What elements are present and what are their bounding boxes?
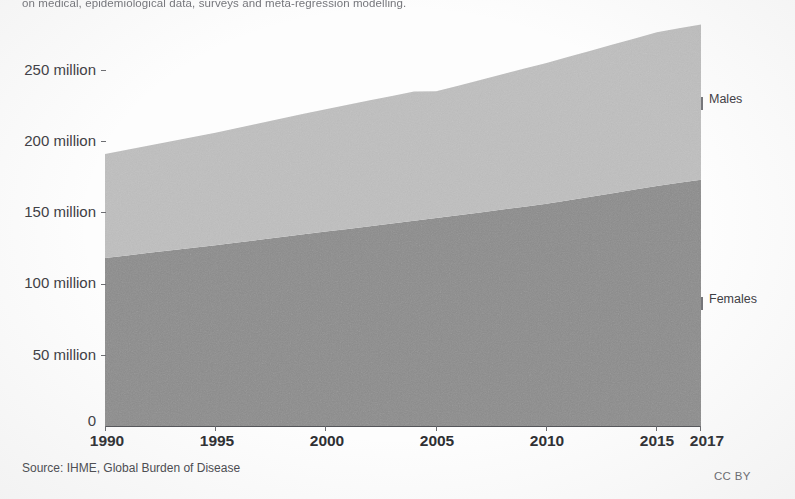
- x-tick-mark-2015: [656, 426, 657, 431]
- source-note: Source: IHME, Global Burden of Disease: [22, 461, 240, 475]
- x-tick-label-1990: 1990: [90, 432, 124, 450]
- x-tick-label-2005: 2005: [420, 432, 454, 450]
- series-label-males: Males: [709, 92, 742, 106]
- series-label-females: Females: [709, 292, 757, 306]
- y-tick-mark-50m: [101, 355, 106, 356]
- x-tick-mark-2017: [700, 426, 701, 431]
- x-tick-label-2010: 2010: [530, 432, 564, 450]
- plot-svg: [105, 18, 701, 426]
- y-tick-mark-100m: [101, 284, 106, 285]
- x-tick-mark-1995: [215, 426, 216, 431]
- plot-area: [105, 18, 701, 426]
- license-note: CC BY: [714, 470, 751, 482]
- page-root: on medical, epidemiological data, survey…: [0, 0, 795, 499]
- x-tick-label-2000: 2000: [310, 432, 344, 450]
- series-tick-males: [701, 97, 703, 110]
- y-tick-label-250m: 250 million: [0, 61, 96, 78]
- x-tick-mark-2000: [325, 426, 326, 431]
- x-tick-label-2017: 2017: [690, 432, 724, 450]
- x-axis-line: [105, 426, 701, 427]
- y-tick-mark-200m: [101, 141, 106, 142]
- x-tick-mark-2010: [546, 426, 547, 431]
- stacked-area-chart: 250 million 200 million 150 million 100 …: [0, 0, 795, 499]
- y-tick-mark-250m: [101, 70, 106, 71]
- y-tick-label-50m: 50 million: [0, 346, 96, 363]
- x-tick-label-1995: 1995: [200, 432, 234, 450]
- x-tick-label-2015: 2015: [640, 432, 674, 450]
- x-tick-mark-1990: [105, 426, 106, 431]
- y-tick-label-150m: 150 million: [0, 203, 96, 220]
- y-tick-label-200m: 200 million: [0, 132, 96, 149]
- y-tick-label-0: 0: [0, 412, 96, 429]
- x-tick-mark-2005: [436, 426, 437, 431]
- y-tick-mark-150m: [101, 212, 106, 213]
- series-tick-females: [701, 297, 703, 310]
- y-tick-label-100m: 100 million: [0, 274, 96, 291]
